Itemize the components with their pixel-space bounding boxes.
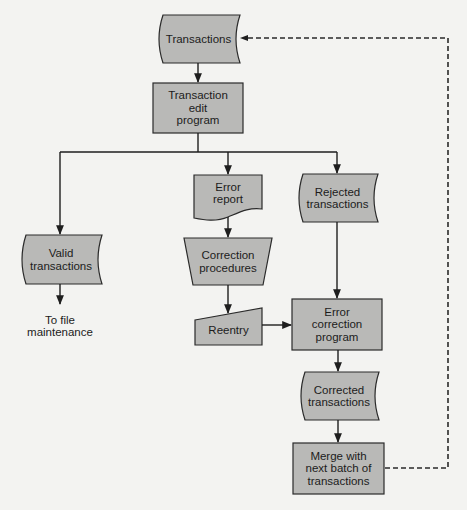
label-line: Rejected [315, 186, 360, 199]
node-rejected-transactions: Rejected transactions [297, 174, 378, 222]
label-line: transactions [308, 396, 370, 409]
node-correction-procedures: Correction procedures [184, 238, 272, 285]
label-line: correction [312, 318, 363, 331]
label-line: Transactions [166, 33, 231, 46]
label-line: report [213, 193, 243, 206]
node-error-report: Error report [194, 174, 262, 212]
node-transactions: Transactions [157, 15, 240, 63]
label-line: transactions [30, 260, 92, 273]
label-line: To file [45, 314, 75, 327]
node-edit-program: Transaction edit program [153, 83, 243, 133]
node-file-maintenance: To file maintenance [10, 308, 110, 344]
label-line: procedures [199, 262, 257, 275]
node-error-correction-program: Error correction program [292, 299, 382, 350]
label-line: Corrected [314, 384, 365, 397]
flowchart: Transactions Transaction edit program Va… [0, 0, 467, 510]
label-line: edit [189, 102, 208, 115]
label-line: next batch of [306, 462, 372, 475]
label-line: Error [215, 181, 241, 194]
node-merge: Merge with next batch of transactions [293, 443, 384, 494]
label-line: Correction [201, 249, 254, 262]
node-valid-transactions: Valid transactions [20, 235, 102, 284]
label-line: Transaction [168, 89, 228, 102]
label-line: Error [324, 306, 350, 319]
label-line: Merge with [310, 450, 366, 463]
label-line: Reentry [208, 324, 248, 337]
label-line: Valid [49, 247, 74, 260]
label-line: program [316, 331, 359, 344]
label-line: transactions [307, 475, 369, 488]
dashed-arrowhead [240, 35, 248, 41]
node-reentry: Reentry [195, 316, 262, 345]
label-line: program [177, 114, 220, 127]
label-line: transactions [306, 198, 368, 211]
node-corrected-transactions: Corrected transactions [299, 372, 379, 420]
label-line: maintenance [27, 326, 93, 339]
